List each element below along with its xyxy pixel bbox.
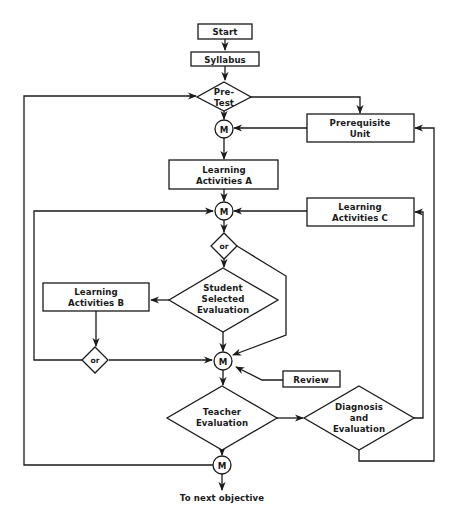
node-diagnosis-label-3: Evaluation (333, 424, 385, 434)
node-merge1: M (215, 120, 233, 138)
node-merge2: M (215, 202, 233, 220)
node-prerequisite-label-1: Prerequisite (330, 118, 391, 128)
edge-review-merge3 (236, 367, 283, 380)
node-review-label: Review (293, 375, 328, 385)
node-prerequisite: Prerequisite Unit (307, 114, 414, 142)
node-merge2-label: M (220, 207, 229, 217)
node-diagnosis-label-2: and (350, 413, 368, 423)
node-student-eval-label-1: Student (203, 283, 242, 293)
node-syllabus: Syllabus (191, 52, 259, 66)
node-prerequisite-label-2: Unit (350, 129, 371, 139)
node-merge3: M (214, 352, 232, 370)
node-activities-a-label-1: Learning (202, 165, 245, 175)
flowchart-diagram: Start Syllabus Pre- Test M Prerequisite … (0, 0, 454, 521)
node-pretest-label-1: Pre- (214, 87, 235, 97)
edge-diagnosis-activities-c (414, 212, 423, 418)
node-activities-c-label-2: Activities C (332, 213, 388, 223)
node-teacher-eval-label-1: Teacher (203, 407, 242, 417)
node-activities-c-label-1: Learning (338, 202, 381, 212)
node-diagnosis: Diagnosis and Evaluation (304, 386, 414, 450)
node-activities-b: Learning Activities B (43, 283, 149, 311)
node-merge3-label: M (219, 357, 228, 367)
node-pretest: Pre- Test (197, 82, 251, 111)
node-teacher-eval-label-2: Evaluation (196, 418, 248, 428)
node-review: Review (283, 371, 340, 387)
node-activities-b-label-1: Learning (74, 287, 117, 297)
node-syllabus-label: Syllabus (204, 55, 246, 65)
node-diagnosis-label-1: Diagnosis (335, 402, 383, 412)
node-merge4-label: M (218, 461, 227, 471)
node-or1: or (211, 233, 237, 259)
node-activities-a-label-2: Activities A (196, 176, 252, 186)
node-start-label: Start (213, 27, 238, 37)
node-or2: or (82, 347, 108, 373)
node-or2-label: or (90, 356, 99, 365)
node-activities-c: Learning Activities C (307, 198, 414, 226)
node-or1-label: or (219, 242, 228, 251)
node-activities-b-label-2: Activities B (68, 298, 124, 308)
node-merge4: M (213, 456, 231, 474)
node-teacher-eval: Teacher Evaluation (167, 386, 277, 450)
edge-pretest-prerequisite (251, 97, 360, 113)
node-merge1-label: M (220, 125, 229, 135)
node-activities-a: Learning Activities A (169, 160, 278, 189)
node-student-eval-label-2: Selected (202, 294, 245, 304)
node-start: Start (198, 24, 252, 39)
node-pretest-label-2: Test (214, 98, 234, 108)
node-student-eval-label-3: Evaluation (197, 305, 249, 315)
node-student-eval: Student Selected Evaluation (169, 268, 278, 332)
exit-label: To next objective (180, 493, 264, 503)
